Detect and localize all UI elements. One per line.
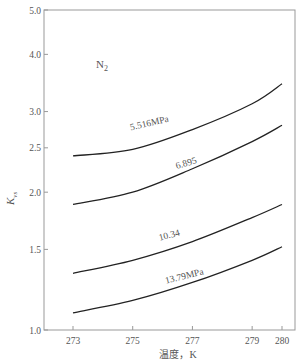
- series-label: 5.516MPa: [129, 114, 170, 133]
- series-line: [73, 84, 282, 156]
- y-tick-label: 5.0: [29, 6, 41, 16]
- y-tick-label: 3.0: [29, 107, 41, 117]
- y-tick-label: 4.0: [29, 50, 41, 60]
- y-tick-label: 1.5: [29, 245, 41, 255]
- kvs-temperature-chart: 1.01.52.02.53.04.05.0 273275277279280 5.…: [0, 0, 300, 364]
- series-label: 13.79MPa: [164, 266, 205, 285]
- y-tick-label: 1.0: [29, 326, 41, 336]
- y-axis-label: Kvs: [4, 192, 19, 206]
- x-tick-label: 273: [66, 336, 81, 346]
- x-tick-label: 277: [185, 336, 200, 346]
- y-axis-ticks: 1.01.52.02.53.04.05.0: [29, 6, 48, 336]
- x-tick-label: 279: [245, 336, 260, 346]
- series-label: 10.34: [158, 227, 181, 242]
- series-label: 6.895: [174, 155, 198, 171]
- x-axis-label: 温度，K: [159, 348, 197, 360]
- series-line: [73, 204, 282, 273]
- y-tick-label: 2.0: [29, 188, 41, 198]
- y-tick-label: 2.5: [29, 143, 41, 153]
- x-tick-label: 280: [275, 336, 290, 346]
- gas-annotation: N2: [96, 58, 108, 73]
- x-tick-label: 275: [126, 336, 141, 346]
- series-curves: 5.516MPa6.89510.3413.79MPa: [73, 84, 282, 313]
- x-axis-ticks: 273275277279280: [66, 326, 290, 346]
